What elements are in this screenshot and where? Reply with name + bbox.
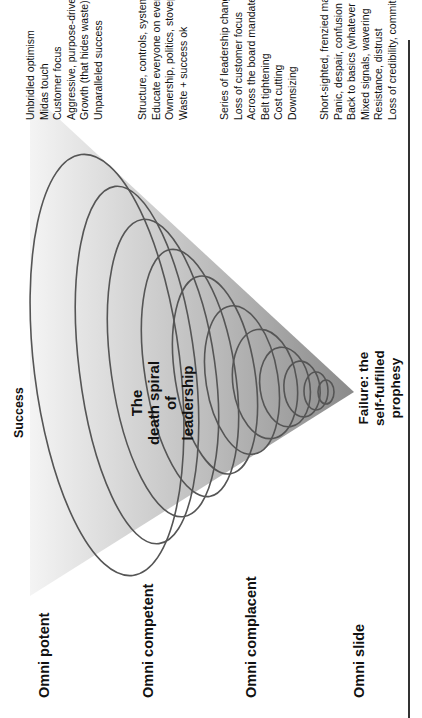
phase-label-omni-potent: Omni potent	[36, 613, 52, 698]
list-item: Downsizing	[286, 0, 300, 120]
failure-line: Failure: the	[356, 328, 372, 448]
phase-label-omni-slide: Omni slide	[351, 624, 367, 698]
list-item: Across the board mandates	[245, 0, 259, 120]
list-item: Ownership, politics, stovepipes	[163, 0, 177, 120]
list-item: Structure, controls, systems	[136, 0, 150, 120]
list-item: Cost cutting	[272, 0, 286, 120]
figure-bottom-rule	[408, 40, 410, 718]
list-item: Unbridled optimism	[24, 0, 38, 120]
list-item: Growth (that hides waste)	[78, 0, 92, 120]
list-item: Series of leadership changes	[218, 0, 232, 120]
list-item: Panic, despair, confusion	[332, 0, 346, 120]
list-item: Educate everyone on everything	[150, 0, 164, 120]
list-item: Short-sighted, frenzied management	[318, 0, 332, 120]
title-line: The	[128, 348, 145, 458]
spiral-title: The death spiral of leadership	[128, 348, 196, 458]
list-item: Loss of customer focus	[232, 0, 246, 120]
list-item: Mixed signals, wavering	[359, 0, 373, 120]
success-label: Success	[12, 387, 26, 438]
phase-items-omni-complacent: Series of leadership changes Loss of cus…	[218, 0, 300, 120]
death-spiral-figure: Success The death spiral of leadership F…	[0, 0, 422, 718]
list-item: Belt tightening	[259, 0, 273, 120]
title-line: leadership	[179, 348, 196, 458]
title-line: of	[162, 348, 179, 458]
phase-label-omni-competent: Omni competent	[140, 584, 156, 698]
failure-label: Failure: the self-fulfilled prophesy	[356, 328, 404, 448]
list-item: Waste + success ok	[177, 0, 191, 120]
list-item: Unparalleled success	[92, 0, 106, 120]
phase-items-omni-slide: Short-sighted, frenzied management Panic…	[318, 0, 400, 120]
list-item: Resistance, distrust	[372, 0, 386, 120]
list-item: Midas touch	[38, 0, 52, 120]
title-line: death spiral	[145, 348, 162, 458]
phase-items-omni-potent: Unbridled optimism Midas touch Customer …	[24, 0, 106, 120]
list-item: Aggressive, purpose-driven leadership	[65, 0, 79, 120]
list-item: Customer focus	[51, 0, 65, 120]
list-item: Back to basics (whatever that was!)	[345, 0, 359, 120]
phase-items-omni-competent: Structure, controls, systems Educate eve…	[136, 0, 190, 120]
phase-label-omni-complacent: Omni complacent	[243, 576, 259, 698]
failure-line: prophesy	[388, 328, 404, 448]
list-item: Loss of credibility, commitment	[386, 0, 400, 120]
failure-line: self-fulfilled	[372, 328, 388, 448]
